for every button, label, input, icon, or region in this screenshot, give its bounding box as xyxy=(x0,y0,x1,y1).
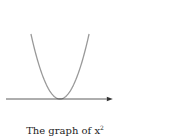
axes xyxy=(6,97,113,101)
parabola-curve xyxy=(31,34,89,99)
x-axis-arrow-icon xyxy=(107,97,113,101)
parabola-chart xyxy=(0,0,175,125)
chart-caption: The graph of x2 xyxy=(0,124,130,136)
parabola-line xyxy=(31,34,89,99)
